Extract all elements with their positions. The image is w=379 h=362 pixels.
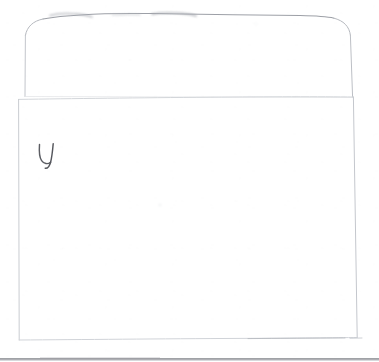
- stray-mark-1: [159, 204, 161, 206]
- sketch-canvas: Hand-drawn pencil sketch Faint hand-draw…: [0, 0, 379, 362]
- lower-panel-left-edge: [19, 99, 20, 340]
- stray-mark-3: [69, 15, 71, 17]
- top-edge-smudge-center: [112, 14, 140, 15]
- paper-background: [0, 0, 379, 362]
- stray-mark-2: [255, 23, 257, 25]
- scan-edge-line-bar: [0, 358, 379, 360]
- sketch-drawing: [0, 0, 379, 362]
- scan-edge-line-soft: [0, 360, 379, 361]
- scan-edge-line-highlight: [40, 357, 160, 358]
